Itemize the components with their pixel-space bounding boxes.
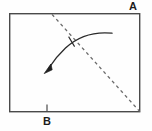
figure-container: A B xyxy=(0,0,152,131)
edge-label-b: B xyxy=(43,116,51,127)
rectangle-outline xyxy=(10,14,140,112)
rotation-arrow-curve xyxy=(49,33,113,69)
rotation-arrowhead-icon xyxy=(44,64,52,74)
corner-label-a: A xyxy=(129,1,137,12)
dashed-fold-line xyxy=(52,14,140,111)
geometry-diagram xyxy=(0,0,152,131)
